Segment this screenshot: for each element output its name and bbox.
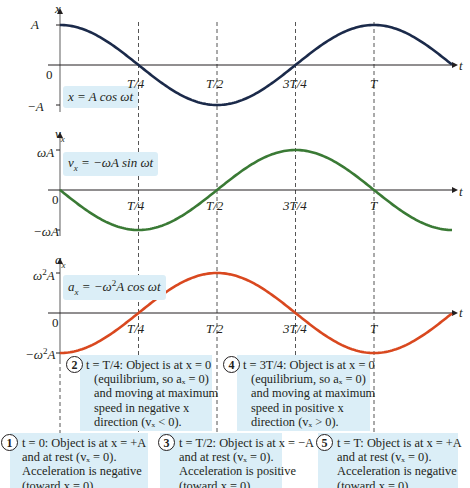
tick-T-2: T: [370, 199, 377, 212]
v-min-label: −ωA: [33, 225, 59, 238]
tick-T2-1: T/2: [206, 77, 223, 90]
x-axis-label: x: [55, 2, 61, 15]
a-min-label: −ω2A: [25, 347, 55, 361]
curves: [60, 25, 452, 353]
axes: [48, 8, 458, 360]
t-axis-label-1: t: [459, 59, 463, 72]
tick-3T4-1: 3T/4: [283, 77, 307, 90]
acceleration-equation: ax = −ω2A cos ωt: [63, 275, 166, 300]
note-4: 4 t = 3T/4: Object is at x = 0 (equilibr…: [237, 355, 370, 431]
note-5: 5 t = T: Object is at x = +A and at rest…: [318, 433, 458, 488]
a-axis-label: ax: [55, 253, 66, 270]
x-max-label: A: [31, 18, 39, 31]
tick-3T4-2: 3T/4: [283, 199, 307, 212]
note-2: 2 t = T/4: Object is at x = 0 (equilibri…: [80, 355, 212, 431]
t-axis-label-2: t: [459, 185, 463, 198]
x-min-label: −A: [27, 100, 44, 113]
a-zero-label: 0: [52, 316, 59, 329]
a-max-label: ω2A: [33, 268, 55, 282]
tick-T-3: T: [370, 322, 377, 335]
tick-3T4-3: 3T/4: [283, 322, 307, 335]
note-1: 1 t = 0: Object is at x = +A and at rest…: [10, 433, 148, 488]
v-axis-label: vx: [55, 127, 65, 144]
v-max-label: ωA: [37, 146, 54, 159]
tick-T2-3: T/2: [206, 322, 223, 335]
velocity-equation: vx = −ωA sin ωt: [63, 152, 158, 176]
x-zero-label: 0: [46, 68, 53, 81]
tick-T-1: T: [370, 77, 377, 90]
v-zero-label: 0: [52, 193, 59, 206]
tick-T4-1: T/4: [127, 77, 144, 90]
tick-T4-2: T/4: [127, 199, 144, 212]
shm-graphs: [0, 0, 470, 488]
tick-T4-3: T/4: [127, 322, 144, 335]
t-axis-label-3: t: [459, 306, 463, 319]
tick-T2-2: T/2: [206, 199, 223, 212]
note-3: 3 t = T/2: Object is at x = −A and at re…: [160, 433, 282, 488]
